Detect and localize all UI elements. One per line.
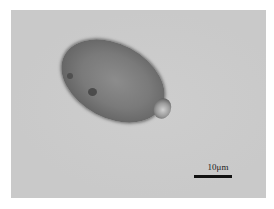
specimen-cell	[47, 23, 179, 140]
cell-inclusion	[67, 73, 73, 79]
scale-bar	[194, 175, 232, 178]
cell-inclusion	[88, 88, 97, 96]
scale-bar-label: 10μm	[198, 162, 238, 172]
